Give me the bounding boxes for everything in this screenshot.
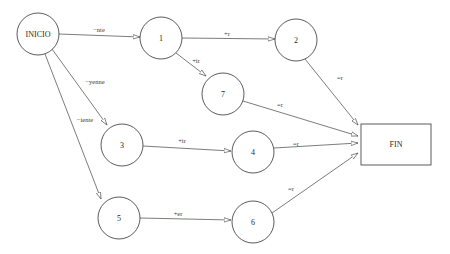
- edge-label: +ir: [178, 137, 186, 144]
- edge-label: =r: [293, 140, 300, 147]
- edge-2-to-fin: [305, 59, 358, 125]
- edge-label: =r: [288, 185, 295, 192]
- node-5: 5: [98, 197, 140, 239]
- edge-6-to-fin: [272, 153, 358, 213]
- edge-1-to-2: [182, 38, 275, 39]
- node-label: FIN: [390, 140, 403, 149]
- edge-label: +er: [174, 210, 184, 217]
- edge-3-to-4: [143, 146, 231, 151]
- node-label: 4: [251, 148, 255, 157]
- edge-label: −iente: [77, 116, 93, 123]
- nodes-layer: INICIO1273456FIN: [17, 13, 431, 243]
- edge-label: =r: [277, 101, 284, 108]
- node-label: 2: [294, 36, 298, 45]
- node-label: INICIO: [26, 30, 51, 39]
- node-label: 6: [251, 218, 255, 227]
- state-diagram: INICIO1273456FIN −nte−yenne−iente+r+ir=r…: [0, 0, 450, 254]
- edge-4-to-fin: [274, 143, 358, 148]
- edge-inicio-to-5: [45, 54, 101, 199]
- edge-label: −yenne: [85, 78, 104, 85]
- edge-inicio-to-3: [52, 49, 107, 125]
- node-label: 3: [120, 141, 124, 150]
- node-label: 7: [221, 90, 225, 99]
- edges-layer: [45, 34, 358, 220]
- node-2: 2: [275, 19, 317, 61]
- node-1: 1: [140, 17, 182, 59]
- node-fin: FIN: [361, 124, 431, 165]
- node-3: 3: [101, 124, 143, 166]
- edge-5-to-6: [140, 218, 231, 220]
- node-4: 4: [232, 131, 274, 173]
- edge-label: +ir: [192, 57, 200, 64]
- node-label: 5: [117, 214, 121, 223]
- node-6: 6: [232, 201, 274, 243]
- edge-inicio-to-1: [59, 34, 140, 37]
- edge-1-to-7: [176, 53, 206, 76]
- edge-label: −nte: [93, 26, 105, 33]
- edge-label: =r: [337, 74, 344, 81]
- edge-7-to-fin: [243, 101, 358, 136]
- node-inicio: INICIO: [17, 13, 59, 55]
- node-7: 7: [202, 73, 244, 115]
- edge-label: +r: [224, 30, 231, 37]
- node-label: 1: [159, 34, 163, 43]
